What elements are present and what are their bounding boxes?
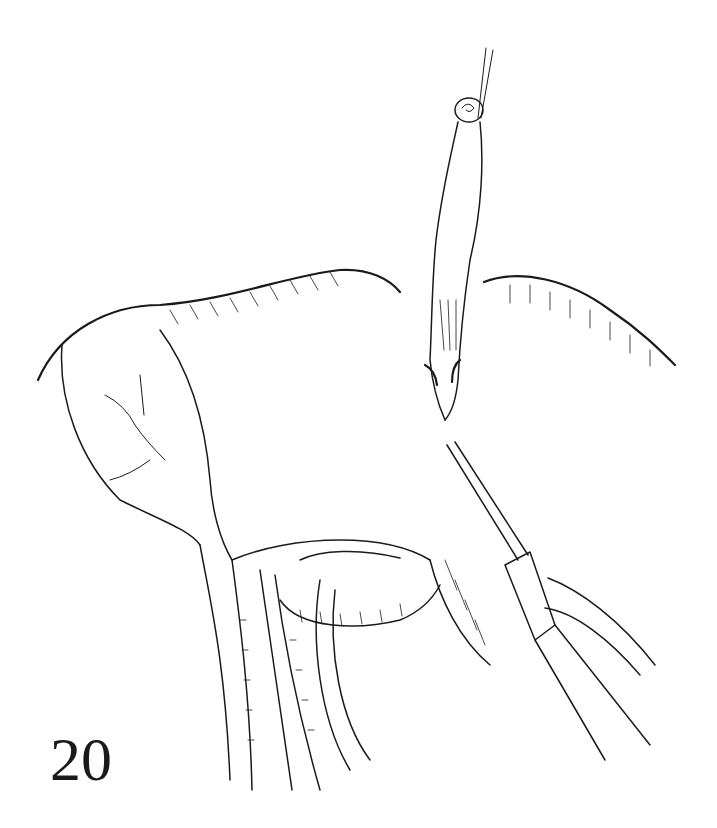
suture-thread bbox=[478, 48, 493, 118]
surgical-illustration bbox=[0, 0, 717, 828]
surgical-instrument bbox=[447, 442, 655, 760]
figure-number: 20 bbox=[50, 728, 112, 790]
appendix bbox=[425, 122, 482, 420]
mesenteric-vessels bbox=[200, 545, 400, 790]
cecum bbox=[38, 270, 675, 665]
